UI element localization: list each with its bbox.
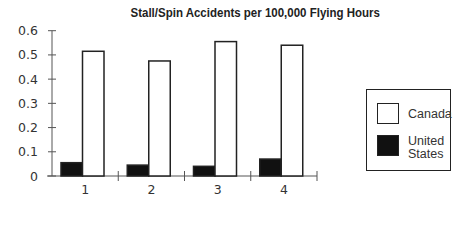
legend-swatch-canada (377, 103, 399, 124)
legend-label-united-states: United States (408, 135, 444, 161)
x-tick-label: 1 (81, 182, 89, 197)
y-tick-label: 0.1 (18, 144, 38, 159)
chart-legend: Canada United States (366, 89, 451, 171)
legend-label-line-2: States (408, 148, 444, 161)
y-tick-label: 0.4 (18, 72, 38, 87)
y-tick-label: 0.2 (18, 120, 38, 135)
bar-united-states-1 (61, 163, 83, 176)
bar-canada-4 (281, 45, 303, 176)
x-tick-label: 4 (280, 182, 288, 197)
y-tick-label: 0.6 (18, 23, 38, 38)
legend-item-united-states: United States (377, 135, 444, 161)
legend-label-canada: Canada (408, 108, 452, 121)
y-tick-label: 0 (30, 169, 38, 184)
bar-canada-1 (83, 51, 105, 176)
legend-swatch-united-states (377, 135, 399, 156)
bar-united-states-2 (127, 165, 149, 176)
y-tick-label: 0.5 (18, 47, 38, 62)
bar-united-states-3 (194, 166, 216, 176)
x-tick-label: 2 (147, 182, 155, 197)
bar-canada-2 (149, 61, 171, 176)
y-tick-label: 0.3 (18, 96, 38, 111)
x-tick-label: 3 (214, 182, 222, 197)
bar-united-states-4 (260, 159, 282, 176)
bar-canada-3 (215, 42, 237, 176)
legend-item-canada: Canada (377, 103, 452, 124)
